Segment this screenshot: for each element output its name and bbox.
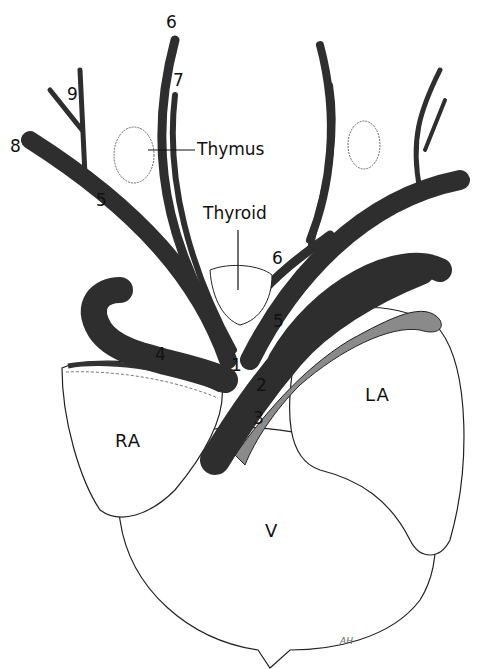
label-6-right: 6 [272, 250, 283, 267]
label-6-top: 6 [166, 14, 177, 31]
label-left-atrium: LA [365, 386, 390, 404]
label-ventricle: V [265, 522, 278, 540]
label-3: 3 [253, 410, 264, 427]
label-5-left: 5 [96, 192, 107, 209]
artist-signature: AH [340, 637, 353, 646]
label-7: 7 [173, 72, 184, 89]
label-right-atrium: RA [115, 432, 141, 450]
label-9: 9 [67, 86, 78, 103]
label-2: 2 [256, 377, 267, 394]
label-1: 1 [231, 357, 242, 374]
label-8: 8 [10, 138, 21, 155]
label-5-center: 5 [273, 313, 284, 330]
thymus-right-shape [348, 121, 380, 169]
label-thymus: Thymus [197, 141, 264, 158]
label-4: 4 [155, 346, 166, 363]
thymus-left-shape [114, 127, 154, 183]
label-thyroid: Thyroid [203, 205, 267, 222]
